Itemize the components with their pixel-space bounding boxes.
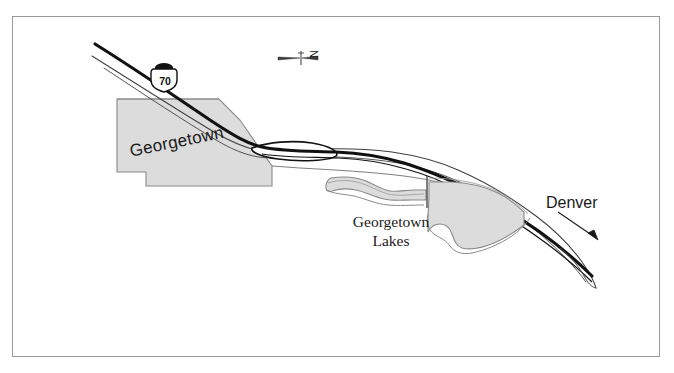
shield-route-number: 70 [155, 75, 175, 87]
location-map-figure: Georgetown Georgetown Lakes Denver N 70 [0, 0, 674, 373]
destination-label-denver: Denver [546, 194, 598, 212]
water-label-line-1: Georgetown [335, 212, 447, 231]
north-arrow-letter: N [308, 50, 320, 58]
creek-line [560, 248, 596, 288]
water-label-georgetown-lakes: Georgetown Lakes [335, 212, 447, 250]
map-graphics-canvas [0, 0, 674, 373]
water-label-line-2: Lakes [335, 231, 447, 250]
direction-arrow-icon [558, 212, 598, 240]
